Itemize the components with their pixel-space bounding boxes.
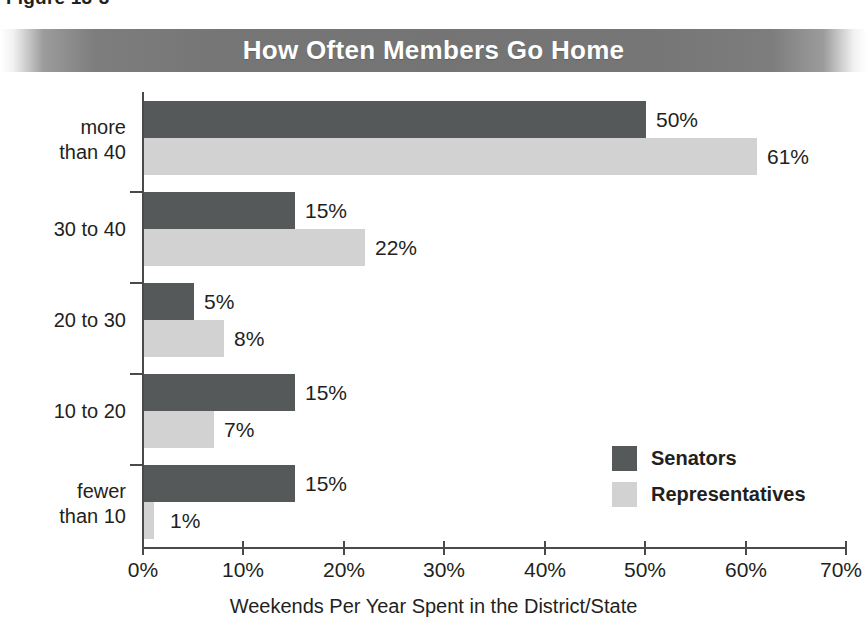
category-label-fewer-than-10: fewer than 10 <box>59 479 126 529</box>
x-axis-tick-40 <box>544 541 546 555</box>
x-axis-tick-label-10: 10% <box>222 558 264 582</box>
chart-legend: Senators Representatives <box>612 440 806 512</box>
x-axis-tick-0 <box>142 541 144 555</box>
x-axis-tick-label-20: 20% <box>323 558 365 582</box>
bar-senators-20-to-30 <box>144 283 194 320</box>
x-axis-tick-10 <box>242 541 244 555</box>
bar-representatives-fewer-than-10 <box>144 502 154 539</box>
bar-senators-more-than-40 <box>144 101 646 138</box>
chart-plot-area: more than 40 30 to 40 20 to 30 10 to 20 … <box>0 0 867 625</box>
legend-swatch-senators <box>612 446 637 471</box>
x-axis-tick-50 <box>644 541 646 555</box>
x-axis-tick-label-60: 60% <box>725 558 767 582</box>
y-axis-tick <box>130 373 142 375</box>
bar-value-representatives-fewer-than-10: 1% <box>170 509 200 533</box>
category-label-10-to-20: 10 to 20 <box>54 399 126 424</box>
x-axis-tick-label-30: 30% <box>423 558 465 582</box>
x-axis-title: Weekends Per Year Spent in the District/… <box>0 595 867 618</box>
y-axis-tick <box>130 464 142 466</box>
legend-item-senators: Senators <box>612 440 806 476</box>
legend-item-representatives: Representatives <box>612 476 806 512</box>
bar-representatives-more-than-40 <box>144 138 757 175</box>
legend-label-representatives: Representatives <box>651 483 806 506</box>
bar-representatives-20-to-30 <box>144 320 224 357</box>
x-axis-tick-30 <box>443 541 445 555</box>
x-axis-line <box>142 547 846 549</box>
x-axis-tick-label-50: 50% <box>624 558 666 582</box>
bar-value-senators-30-to-40: 15% <box>305 199 347 223</box>
bar-senators-30-to-40 <box>144 192 295 229</box>
bar-value-senators-more-than-40: 50% <box>656 108 698 132</box>
y-axis-tick <box>130 282 142 284</box>
category-label-more-than-40: more than 40 <box>59 115 126 165</box>
x-axis-tick-60 <box>745 541 747 555</box>
bar-value-representatives-20-to-30: 8% <box>234 327 264 351</box>
bar-value-senators-10-to-20: 15% <box>305 381 347 405</box>
category-label-30-to-40: 30 to 40 <box>54 217 126 242</box>
x-axis-tick-label-0: 0% <box>128 558 158 582</box>
x-axis-tick-70 <box>845 541 847 555</box>
x-axis-tick-20 <box>343 541 345 555</box>
bar-value-representatives-more-than-40: 61% <box>767 145 809 169</box>
x-axis-tick-label-70: 70% <box>820 558 862 582</box>
y-axis-tick <box>130 191 142 193</box>
bar-value-senators-fewer-than-10: 15% <box>305 472 347 496</box>
bar-value-representatives-30-to-40: 22% <box>375 236 417 260</box>
x-axis-tick-label-40: 40% <box>524 558 566 582</box>
bar-senators-fewer-than-10 <box>144 465 295 502</box>
bar-value-representatives-10-to-20: 7% <box>224 418 254 442</box>
legend-swatch-representatives <box>612 482 637 507</box>
bar-representatives-30-to-40 <box>144 229 365 266</box>
bar-representatives-10-to-20 <box>144 411 214 448</box>
category-label-20-to-30: 20 to 30 <box>54 308 126 333</box>
bar-senators-10-to-20 <box>144 374 295 411</box>
bar-value-senators-20-to-30: 5% <box>204 290 234 314</box>
legend-label-senators: Senators <box>651 447 737 470</box>
